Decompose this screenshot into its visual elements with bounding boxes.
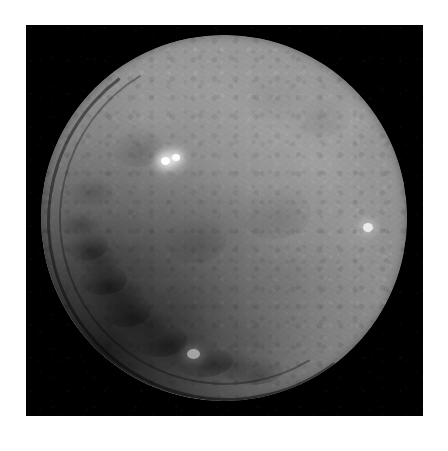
ceres-disk-container bbox=[41, 35, 407, 401]
screenshot-root bbox=[0, 0, 448, 451]
ceres-disk bbox=[41, 35, 407, 401]
terminator-shadow bbox=[41, 35, 407, 401]
photo-frame bbox=[26, 25, 423, 416]
